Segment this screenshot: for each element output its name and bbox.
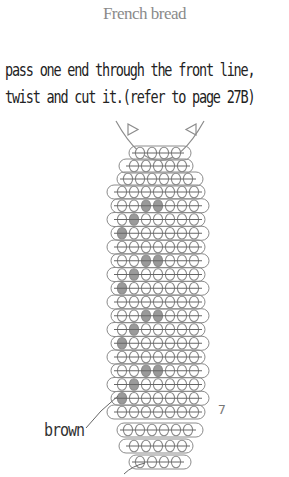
brown-label: brown	[44, 419, 84, 441]
brown-pointer-line	[86, 396, 118, 428]
arrow-right-icon	[128, 124, 138, 135]
row-count-label: 7	[218, 402, 225, 417]
bead-pattern-diagram	[0, 0, 289, 477]
arrow-left-icon	[186, 124, 196, 135]
bead-rows	[107, 146, 209, 469]
